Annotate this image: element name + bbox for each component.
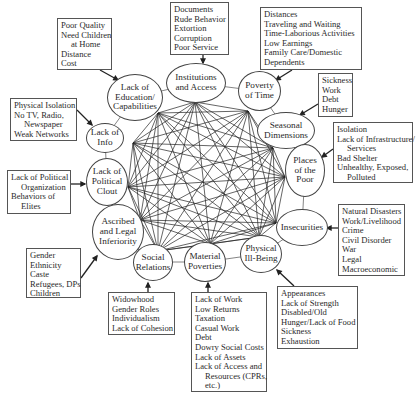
box-line: Macroeconomic (342, 265, 401, 275)
node-poverty-of-time: Povertyof Time (238, 71, 281, 111)
node-label: Clout (92, 187, 123, 197)
box-physical-ill-being-factors: AppearancesLack of StrengthDisabled/OldH… (277, 286, 358, 349)
node-label: Poor (293, 175, 316, 185)
node-lack-of-education-capabilities: Lack ofEducation/Capabilities (107, 74, 163, 121)
node-label: Ill-Being (244, 254, 277, 264)
box-poverty-of-time-factors: DistancesTraveling and WaitingTime-Labor… (260, 7, 362, 70)
node-places-of-the-poor: Placesof thePoor (285, 144, 325, 197)
box-line: Hunger (322, 105, 349, 115)
box-line: Weak Networks (14, 130, 73, 140)
box-line: Elites (11, 202, 67, 212)
node-label: Info (91, 138, 119, 148)
node-label: Relations (136, 263, 171, 273)
box-social-relations-factors: WidowhoodGender RolesIndividualismLack o… (108, 292, 175, 335)
box-info-factors: Physical IsolationNo TV, Radio,Newspaper… (10, 98, 77, 141)
node-label: Inferiority (99, 237, 137, 247)
box-ascribed-factors: GenderEthnicityCasteRefugees, DPsChildre… (26, 248, 81, 298)
node-ascribed-and-legal-inferiority: Ascribedand LegalInferiority (92, 204, 144, 260)
node-physical-ill-being: PhysicalIll-Being (240, 235, 282, 273)
box-line: Cost (61, 59, 108, 69)
node-lack-of-political-clout: Lack ofPoliticalClout (86, 158, 128, 206)
arrow-head-icon (81, 182, 85, 186)
node-label: of Time (245, 91, 274, 101)
node-label: and Access (175, 83, 216, 93)
arrow-head-icon (146, 283, 150, 287)
box-seasonal-factors: SicknessWorkDebtHunger (318, 73, 353, 117)
node-insecurities: Insecurities (276, 209, 328, 246)
box-line: etc.) (195, 381, 263, 391)
node-label: Insecurities (281, 223, 323, 233)
arrow-head-icon (206, 283, 210, 287)
node-social-relations: SocialRelations (133, 244, 173, 281)
box-places-factors: IsolationLack of Infrastructure/Services… (333, 122, 413, 183)
box-line: Dependents (264, 58, 358, 68)
node-lack-of-info: Lack ofInfo (86, 123, 124, 153)
box-line: Exhaustion (281, 337, 354, 347)
node-institutions-and-access: Institutionsand Access (166, 63, 226, 103)
node-label: Capabilities (113, 102, 157, 112)
box-material-poverties-factors: Lack of WorkLow ReturnsTaxationCasual Wo… (191, 292, 267, 392)
node-label: Dimensions (264, 131, 308, 141)
box-line: Polluted (337, 173, 409, 183)
box-line: Poor Service (174, 43, 225, 53)
node-material-poverties: MaterialPoverties (184, 242, 226, 282)
box-insecurities-factors: Natural DisastersWork/LivelihoodCrimeCiv… (338, 204, 405, 276)
box-line: Lack of Cohesion (112, 324, 171, 334)
box-line: Children (30, 289, 77, 299)
box-institutions-factors: DocumentsRude BehaviorExtortionCorruptio… (170, 2, 229, 55)
box-political-factors: Lack of PoliticalOrganizationBehaviors o… (7, 170, 71, 214)
node-label: Poverties (188, 262, 222, 272)
box-education-factors: Poor QualityNeed Childrenat HomeDistance… (57, 18, 112, 70)
